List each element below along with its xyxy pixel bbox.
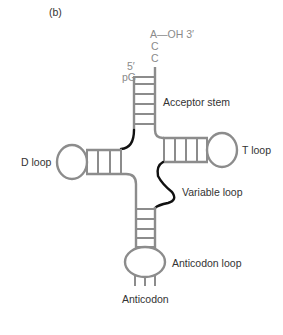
t-loop bbox=[207, 133, 237, 167]
connector-strand-acceptor-d bbox=[121, 130, 134, 149]
variable-loop bbox=[155, 162, 174, 208]
anticodon-label: Anticodon bbox=[122, 293, 169, 305]
sequence-c1: C bbox=[151, 40, 159, 52]
d-stem-bottom-rail bbox=[86, 174, 136, 248]
anticodon-loop bbox=[125, 247, 165, 277]
three-prime-end-label: A—OH 3′ bbox=[150, 28, 194, 40]
trna-cloverleaf-diagram: (b) A—OH 3′ C C 5′ pG Acceptor stem D lo bbox=[0, 0, 283, 335]
panel-label: (b) bbox=[49, 6, 62, 18]
variable-loop-label: Variable loop bbox=[182, 186, 243, 198]
t-loop-label: T loop bbox=[242, 144, 271, 156]
anticodon-arm bbox=[125, 207, 165, 286]
d-arm bbox=[57, 145, 136, 248]
sequence-c2: C bbox=[151, 52, 159, 64]
anticodon-loop-label: Anticodon loop bbox=[172, 257, 242, 269]
acceptor-stem-label: Acceptor stem bbox=[163, 96, 230, 108]
d-loop-label: D loop bbox=[21, 156, 52, 168]
d-loop bbox=[57, 145, 87, 179]
t-arm bbox=[163, 133, 237, 167]
acceptor-stem bbox=[133, 67, 164, 138]
